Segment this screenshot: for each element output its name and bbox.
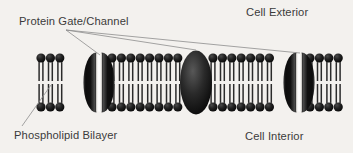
phospholipid: [46, 53, 55, 81]
phospholipid: [324, 53, 333, 81]
phospholipid-head: [265, 102, 274, 111]
phospholipid-head: [136, 53, 145, 62]
phospholipid-head: [334, 102, 343, 111]
protein-gate-right: [283, 53, 314, 113]
phospholipid-head: [154, 102, 163, 111]
phospholipid-head: [334, 53, 343, 62]
phospholipid-head: [126, 53, 135, 62]
phospholipid-head: [55, 102, 64, 111]
phospholipid: [126, 53, 135, 81]
phospholipid: [154, 84, 163, 112]
phospholipid: [46, 84, 55, 112]
label-protein-gate-channel: Protein Gate/Channel: [19, 15, 129, 27]
phospholipid: [136, 53, 145, 81]
label-cell-interior: Cell Interior: [245, 130, 304, 142]
phospholipid-head: [227, 102, 236, 111]
leader-protein-right: [66, 30, 300, 53]
phospholipid: [255, 53, 264, 81]
phospholipid-head: [173, 53, 182, 62]
phospholipid-head: [46, 53, 55, 62]
protein-channel-pore: [96, 54, 101, 112]
phospholipid-head: [136, 102, 145, 111]
phospholipid: [55, 84, 64, 112]
phospholipid: [36, 53, 45, 81]
protein-channel-pore: [296, 54, 301, 112]
phospholipid-head: [218, 53, 227, 62]
phospholipid-head: [255, 53, 264, 62]
protein-gate-middle: [180, 51, 212, 115]
phospholipid-head: [237, 53, 246, 62]
phospholipid-head: [145, 53, 154, 62]
phospholipid-head: [46, 102, 55, 111]
phospholipid-head: [227, 53, 236, 62]
phospholipid-head: [324, 53, 333, 62]
phospholipid-head: [265, 53, 274, 62]
phospholipid: [265, 53, 274, 81]
label-cell-exterior: Cell Exterior: [246, 6, 308, 18]
phospholipid-head: [117, 102, 126, 111]
phospholipid: [246, 84, 255, 112]
phospholipid-head: [55, 53, 64, 62]
phospholipid: [55, 53, 64, 81]
phospholipid: [36, 84, 45, 112]
phospholipid-head: [208, 53, 217, 62]
phospholipid: [324, 84, 333, 112]
protein-body-closed: [180, 51, 212, 115]
phospholipid: [218, 84, 227, 112]
phospholipid-head: [315, 53, 324, 62]
phospholipid-head: [117, 53, 126, 62]
phospholipid: [164, 53, 173, 81]
phospholipid: [218, 53, 227, 81]
phospholipid-head: [173, 102, 182, 111]
membrane-diagram: Protein Gate/Channel Cell Exterior Phosp…: [0, 0, 353, 153]
phospholipid: [227, 53, 236, 81]
protein-gate-left: [83, 53, 114, 113]
phospholipid-head: [126, 102, 135, 111]
leader-protein-left: [66, 30, 100, 55]
protein-lobe-left: [283, 53, 296, 113]
phospholipid-head: [246, 102, 255, 111]
phospholipid-head: [164, 53, 173, 62]
protein-lobe-left: [83, 53, 96, 113]
phospholipid-head: [208, 102, 217, 111]
label-phospholipid-bilayer: Phospholipid Bilayer: [14, 129, 117, 141]
phospholipid: [315, 84, 324, 112]
phospholipid: [265, 84, 274, 112]
phospholipid: [117, 84, 126, 112]
phospholipid-head: [154, 53, 163, 62]
phospholipid: [315, 53, 324, 81]
phospholipid: [334, 84, 343, 112]
leader-protein-middle: [66, 30, 196, 50]
phospholipid-head: [36, 53, 45, 62]
phospholipid-head: [315, 102, 324, 111]
phospholipid: [255, 84, 264, 112]
phospholipid-head: [324, 102, 333, 111]
phospholipid: [334, 53, 343, 81]
phospholipid-head: [255, 102, 264, 111]
phospholipid-head: [218, 102, 227, 111]
phospholipid: [145, 53, 154, 81]
phospholipid: [237, 53, 246, 81]
phospholipid: [237, 84, 246, 112]
phospholipid-head: [145, 102, 154, 111]
phospholipid: [154, 53, 163, 81]
phospholipid: [227, 84, 236, 112]
phospholipid: [117, 53, 126, 81]
phospholipid: [164, 84, 173, 112]
phospholipid-head: [246, 53, 255, 62]
phospholipid: [126, 84, 135, 112]
phospholipid: [136, 84, 145, 112]
phospholipid: [246, 53, 255, 81]
phospholipid-head: [164, 102, 173, 111]
phospholipid: [145, 84, 154, 112]
phospholipid-head: [237, 102, 246, 111]
